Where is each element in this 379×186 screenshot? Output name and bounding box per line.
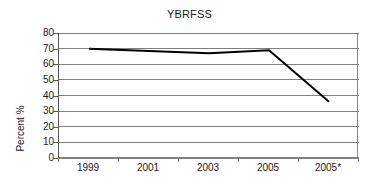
x-axis-tick-mark <box>178 158 179 162</box>
series-line <box>89 49 329 102</box>
y-axis-tick-mark <box>53 80 58 81</box>
y-axis-tick-label: 10 <box>30 137 54 147</box>
y-axis-tick-label: 30 <box>30 106 54 116</box>
y-axis-tick-mark <box>53 111 58 112</box>
y-axis-tick-label: 70 <box>30 44 54 54</box>
x-axis-tick-labels: 19992001200320052005* <box>58 162 358 178</box>
y-axis-tick-mark <box>53 142 58 143</box>
x-axis-tick-mark <box>298 158 299 162</box>
x-axis-tick-label: 1999 <box>77 162 99 174</box>
y-axis-tick-mark <box>53 96 58 97</box>
y-axis-tick-mark <box>53 33 58 34</box>
y-axis-tick-label: 0 <box>30 153 54 163</box>
data-line-series <box>59 33 359 158</box>
x-axis-tick-label: 2005 <box>257 162 279 174</box>
plot-area <box>58 33 358 158</box>
x-axis-tick-label: 2005* <box>315 162 341 174</box>
x-axis-tick-mark <box>118 158 119 162</box>
x-axis-tick-mark <box>358 158 359 162</box>
line-chart: YBRFSS Percent % 01020304050607080 19992… <box>0 0 379 186</box>
x-axis-tick-mark <box>58 158 59 162</box>
x-axis-tick-label: 2001 <box>137 162 159 174</box>
y-axis-tick-labels: 01020304050607080 <box>26 0 54 186</box>
y-axis-tick-mark <box>53 49 58 50</box>
y-axis-tick-label: 40 <box>30 91 54 101</box>
x-axis-tick-label: 2003 <box>197 162 219 174</box>
y-axis-tick-mark <box>53 64 58 65</box>
y-axis-tick-label: 80 <box>30 28 54 38</box>
y-axis-tick-label: 50 <box>30 75 54 85</box>
x-axis-tick-mark <box>238 158 239 162</box>
y-axis-tick-label: 20 <box>30 122 54 132</box>
chart-title: YBRFSS <box>0 8 379 20</box>
y-axis-tick-mark <box>53 127 58 128</box>
y-axis-tick-label: 60 <box>30 59 54 69</box>
